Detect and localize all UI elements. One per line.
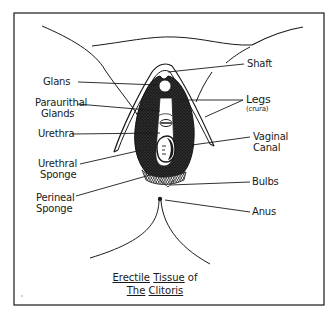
label-urethra: Urethra [38, 128, 74, 139]
label-perineal-sponge: Perineal Sponge [36, 192, 75, 214]
leader-shaft [168, 64, 244, 72]
title-erectile: Erectile [112, 272, 150, 283]
label-vaginal-canal: Vaginal Canal [253, 131, 288, 153]
label-paraurethral-glands: Paraurithal Glands [35, 97, 87, 119]
label-bulbs: Bulbs [252, 176, 279, 187]
diagram-title: Erectile Tissue of The Clitoris [100, 271, 210, 297]
leader-vaginal-canal [192, 137, 250, 145]
leader-legs-2 [205, 100, 243, 117]
label-anus: Anus [252, 206, 276, 217]
title-the: The [127, 285, 146, 296]
title-clitoris: Clitoris [149, 285, 184, 296]
label-glans: Glans [43, 76, 70, 87]
anatomy-diagram: Glans Paraurithal Glands Urethra Urethra… [0, 0, 333, 316]
leader-urethral-sponge [80, 150, 142, 164]
anus-dot [158, 197, 162, 201]
leader-bulbs [170, 182, 250, 185]
label-legs: Legs (crura) [246, 94, 271, 113]
label-shaft: Shaft [247, 58, 272, 69]
label-urethral-sponge: Urethral Sponge [38, 158, 77, 180]
leader-anus [165, 200, 250, 212]
title-tissue: Tissue [153, 272, 185, 283]
buttock-left [90, 201, 159, 258]
leader-perineal-sponge [76, 175, 150, 196]
title-of: of [188, 272, 198, 283]
body-outline-right [252, 27, 303, 45]
body-outline-right-lower [196, 72, 212, 102]
buttock-right [161, 201, 210, 264]
glans-shape [159, 80, 171, 92]
body-outline-top [92, 37, 252, 46]
